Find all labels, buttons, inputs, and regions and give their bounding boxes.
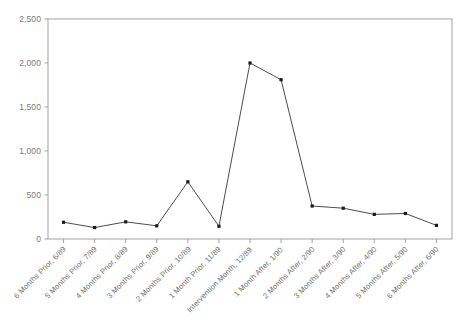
y-axis-tick-label: 2,000 <box>0 58 41 68</box>
data-point-marker <box>186 180 189 183</box>
plot-frame <box>48 19 452 239</box>
y-axis-tick-label: 1,000 <box>0 146 41 156</box>
data-point-marker <box>342 207 345 210</box>
y-axis-tick-label: 500 <box>0 190 41 200</box>
data-point-marker <box>311 204 314 207</box>
data-point-marker <box>155 224 158 227</box>
data-point-marker <box>435 224 438 227</box>
data-series-line <box>64 63 437 228</box>
data-point-marker <box>279 78 282 81</box>
line-chart: 05001,0001,5002,0002,500 6 Months Prior,… <box>0 0 468 327</box>
y-axis-tick-label: 1,500 <box>0 102 41 112</box>
data-point-marker <box>404 212 407 215</box>
data-point-marker <box>62 221 65 224</box>
data-point-marker <box>124 220 127 223</box>
data-point-marker <box>93 226 96 229</box>
data-point-marker <box>373 213 376 216</box>
y-axis-tick-label: 2,500 <box>0 14 41 24</box>
y-axis-tick-label: 0 <box>0 234 41 244</box>
data-point-marker <box>248 61 251 64</box>
data-point-marker <box>217 225 220 228</box>
